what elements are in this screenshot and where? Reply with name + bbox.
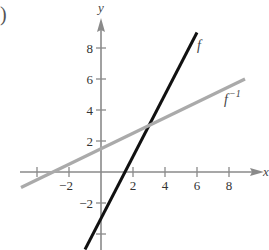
y-tick-label: 6 (87, 72, 94, 87)
y-tick-label: −2 (79, 196, 93, 211)
f-inverse-curve-label: f−1 (224, 88, 241, 107)
inverse-superscript: −1 (229, 88, 241, 99)
series-lines (21, 33, 245, 250)
x-tick-label: 8 (226, 178, 233, 193)
labels: −22468−22468xyff−1 (59, 0, 269, 211)
x-tick-label: 2 (130, 178, 137, 193)
function-inverse-plot: −22468−22468xyff−1 (0, 0, 269, 250)
y-tick-label: 2 (87, 134, 94, 149)
y-axis-arrow-icon (97, 18, 105, 32)
y-tick-label: 8 (87, 41, 94, 56)
x-tick-label: −2 (59, 178, 73, 193)
axes (20, 18, 264, 250)
f-curve-label: f (197, 38, 203, 53)
y-tick-label: 4 (87, 103, 94, 118)
y-axis-label: y (96, 0, 104, 15)
x-tick-label: 4 (162, 178, 169, 193)
x-axis-label: x (262, 164, 269, 179)
x-axis-arrow-icon (250, 168, 264, 176)
x-tick-label: 6 (194, 178, 201, 193)
